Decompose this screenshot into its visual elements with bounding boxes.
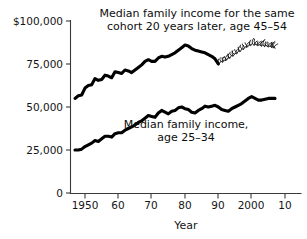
series-projection-squiggle <box>218 38 278 63</box>
x-tick-label-1960: 60 <box>111 199 124 211</box>
y-tick-label-0: 0 <box>56 187 63 199</box>
annotation-lower-line1: Median family income, <box>124 118 249 131</box>
projection-hair-stroke <box>263 39 265 45</box>
chart-container: $100,000 75,000 50,000 25,000 0 1950 60 … <box>0 0 307 239</box>
annotation-upper: Median family income for the same cohort… <box>100 7 295 33</box>
x-tick-label-1990: 90 <box>211 199 224 211</box>
projection-hair-stroke <box>220 58 221 62</box>
projection-hair-stroke <box>271 43 272 48</box>
y-tick-label-100000: $100,000 <box>13 15 63 27</box>
x-tick-label-2000: 2000 <box>238 199 265 211</box>
income-line-chart: $100,000 75,000 50,000 25,000 0 1950 60 … <box>0 0 307 239</box>
y-tick-label-75000: 75,000 <box>26 58 63 70</box>
projection-hair-stroke <box>252 38 253 43</box>
projection-hairs <box>218 38 278 63</box>
annotation-lower-line2: age 25–34 <box>157 131 214 144</box>
x-axis-title: Year <box>173 219 198 232</box>
annotation-upper-line2: cohort 20 years later, age 45–54 <box>107 20 287 33</box>
x-tick-label-1950: 1950 <box>72 199 99 211</box>
projection-hair-stroke <box>240 45 242 49</box>
x-tick-label-2010: 10 <box>278 199 291 211</box>
annotation-lower: Median family income, age 25–34 <box>124 118 249 144</box>
y-tick-label-25000: 25,000 <box>26 144 63 156</box>
x-axis-group: 1950 60 70 80 90 2000 10 Year <box>71 194 302 233</box>
series-line-age-45-54 <box>75 45 218 98</box>
x-tick-label-1970: 70 <box>144 199 157 211</box>
y-tick-label-50000: 50,000 <box>26 101 63 113</box>
y-axis-group: $100,000 75,000 50,000 25,000 0 <box>13 15 71 199</box>
x-tick-label-1980: 80 <box>178 199 191 211</box>
projection-hair-stroke <box>230 52 232 56</box>
annotation-upper-line1: Median family income for the same <box>100 7 295 20</box>
